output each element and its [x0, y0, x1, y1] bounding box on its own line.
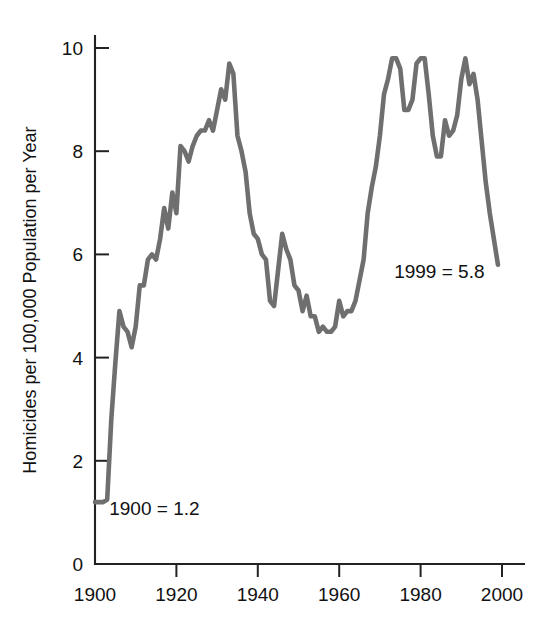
chart-annotation-label: 1900 = 1.2 — [109, 498, 199, 519]
y-tick-label: 4 — [72, 348, 83, 369]
y-tick-label: 8 — [72, 141, 83, 162]
y-tick-label: 6 — [72, 244, 83, 265]
y-tick-label: 10 — [62, 38, 83, 59]
x-tick-label: 1920 — [155, 584, 197, 605]
x-tick-label: 1980 — [399, 584, 441, 605]
x-axis-ticks: 190019201940196019802000 — [74, 564, 523, 605]
y-axis-ticks: 0246810 — [62, 38, 109, 575]
x-tick-label: 1900 — [74, 584, 116, 605]
chart-annotations: 1900 = 1.21999 = 5.8 — [109, 261, 484, 519]
x-tick-label: 1960 — [318, 584, 360, 605]
y-tick-label: 0 — [72, 554, 83, 575]
homicide-rate-chart: Homicides per 100,000 Population per Yea… — [0, 0, 539, 626]
chart-canvas: Homicides per 100,000 Population per Yea… — [0, 0, 539, 626]
x-tick-label: 1940 — [237, 584, 279, 605]
chart-annotation-label: 1999 = 5.8 — [394, 261, 484, 282]
y-axis-title: Homicides per 100,000 Population per Yea… — [20, 126, 40, 473]
x-tick-label: 2000 — [481, 584, 523, 605]
y-tick-label: 2 — [72, 451, 83, 472]
